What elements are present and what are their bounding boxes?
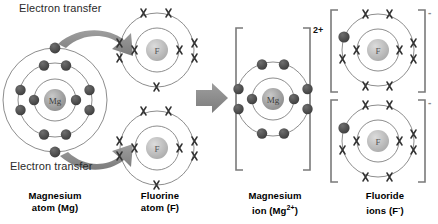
mg-ion-bracket-right bbox=[303, 28, 310, 170]
f-ion-top-nucleus-label: F bbox=[375, 46, 380, 56]
caption-magnesium-atom-line1: Magnesium bbox=[5, 190, 105, 202]
caption-fluorine-atom: Fluorine atom (F) bbox=[115, 190, 205, 213]
fluoride-ion-top-group: F - bbox=[331, 7, 431, 92]
caption-magnesium-atom-line2: atom (Mg) bbox=[5, 202, 105, 214]
caption-fluorine-atom-line1: Fluorine bbox=[115, 190, 205, 202]
caption-magnesium-atom: Magnesium atom (Mg) bbox=[5, 190, 105, 213]
f-ion-bottom-charge-label: - bbox=[428, 97, 431, 108]
f-atom-bottom-nucleus-label: F bbox=[154, 144, 159, 154]
diagram-canvas: Mg bbox=[0, 0, 438, 224]
caption-magnesium-ion-line2: ion (Mg2+) bbox=[225, 202, 325, 217]
fluoride-ion-bottom-group: F - bbox=[331, 97, 431, 182]
mg-ion-bracket-left bbox=[236, 28, 243, 170]
f-ion-top-bracket-left bbox=[331, 10, 338, 92]
f-ion-bottom-nucleus-label: F bbox=[375, 137, 380, 147]
caption-magnesium-ion-line1: Magnesium bbox=[225, 190, 325, 202]
caption-fluoride-ions-pre: ions (F bbox=[366, 205, 398, 216]
f-ion-top-charge-label: - bbox=[428, 7, 431, 18]
caption-fluoride-ions: Fluoride ions (F-) bbox=[340, 190, 430, 216]
f-ion-top-bracket-right bbox=[418, 10, 425, 92]
caption-fluorine-atom-line2: atom (F) bbox=[115, 202, 205, 214]
magnesium-ion-group: Mg 2+ bbox=[233, 25, 323, 170]
caption-fluoride-ions-line1: Fluoride bbox=[340, 190, 430, 202]
mg-ion-charge-label: 2+ bbox=[313, 25, 323, 35]
caption-fluoride-ions-line2: ions (F-) bbox=[340, 202, 430, 217]
f-ion-bottom-bracket-left bbox=[331, 100, 338, 182]
f-ion-bottom-transferred-electron bbox=[338, 122, 349, 133]
magnesium-atom-group: Mg bbox=[3, 43, 107, 158]
caption-magnesium-ion-pre: ion (Mg bbox=[252, 205, 286, 216]
reaction-arrow bbox=[196, 83, 228, 113]
f-ion-bottom-bracket-right bbox=[418, 100, 425, 182]
caption-magnesium-ion: Magnesium ion (Mg2+) bbox=[225, 190, 325, 216]
caption-fluoride-ions-post: ) bbox=[401, 205, 404, 216]
electron-transfer-label-top: Electron transfer bbox=[19, 2, 101, 14]
f-atom-top-nucleus-label: F bbox=[154, 46, 159, 56]
caption-magnesium-ion-charge: 2+ bbox=[287, 204, 295, 211]
caption-magnesium-ion-post: ) bbox=[295, 205, 298, 216]
f-ion-top-transferred-electron bbox=[338, 31, 349, 42]
mg-atom-nucleus-label: Mg bbox=[49, 96, 62, 106]
mg-ion-nucleus-label: Mg bbox=[267, 95, 280, 105]
electron-transfer-arrow-top bbox=[58, 30, 133, 56]
electron-transfer-label-bottom: Electron transfer bbox=[10, 160, 92, 172]
